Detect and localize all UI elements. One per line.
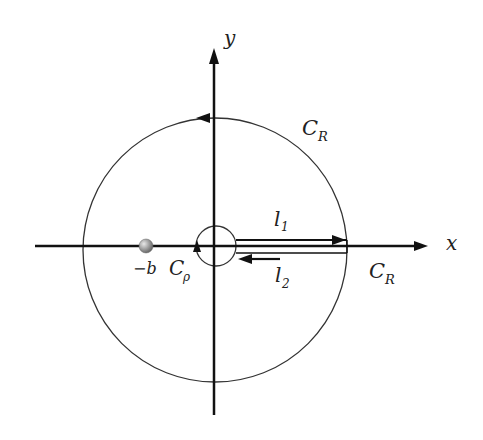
- y-axis-label: y: [223, 26, 236, 50]
- outer-contour-label-top: C R: [302, 116, 328, 144]
- y-axis-arrow-icon: [209, 48, 219, 64]
- svg-text:l: l: [275, 263, 281, 287]
- svg-text:C: C: [302, 116, 318, 140]
- pole-label: −b: [133, 259, 157, 278]
- svg-text:1: 1: [281, 220, 289, 234]
- x-axis-label: x: [446, 231, 457, 255]
- upper-path-label: l 1: [274, 207, 289, 234]
- lower-path-label: l 2: [275, 263, 290, 291]
- l2-arrow-icon: [238, 254, 252, 264]
- svg-text:ρ: ρ: [182, 270, 190, 284]
- svg-text:R: R: [384, 272, 395, 287]
- svg-text:R: R: [317, 129, 328, 144]
- outer-contour-arrow-icon: [196, 113, 210, 123]
- svg-text:C: C: [369, 259, 385, 283]
- contour-diagram: y x C R C R l 1 l 2 C ρ −b: [0, 0, 483, 440]
- outer-contour-label-bottom: C R: [369, 259, 395, 287]
- l1-arrow-icon: [332, 235, 346, 245]
- x-axis-arrow-icon: [414, 241, 428, 251]
- svg-text:2: 2: [281, 277, 290, 291]
- inner-contour-label: C ρ: [169, 256, 190, 284]
- svg-text:l: l: [274, 207, 280, 231]
- pole-point: [139, 239, 153, 253]
